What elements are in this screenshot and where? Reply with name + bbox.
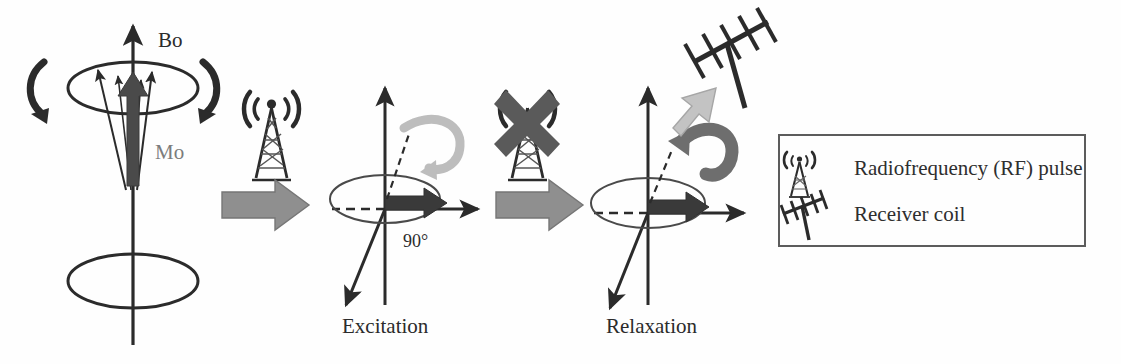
legend-label-receiver-coil: Receiver coil	[854, 202, 965, 227]
relaxation-panel	[591, 88, 744, 308]
figure-canvas: Bo Mo 90° Excitation Relaxation Radiofre…	[0, 0, 1121, 364]
receiver-yagi-antenna-icon	[790, 190, 844, 238]
caption-relaxation: Relaxation	[606, 316, 697, 337]
step-block-arrow-icon	[496, 180, 583, 230]
equilibrium-precession-panel	[30, 26, 217, 345]
rf-antenna-tower-icon	[244, 92, 299, 180]
excitation-panel	[330, 88, 478, 305]
flip-curved-arrow	[404, 119, 460, 180]
caption-excitation: Excitation	[342, 316, 428, 337]
rf-antenna-tower-icon	[790, 144, 844, 192]
label-mo: Mo	[155, 142, 184, 163]
dashed-tip-line	[387, 131, 410, 199]
legend-item-receiver-coil: Receiver coil	[790, 190, 965, 238]
precession-arrow-left	[30, 62, 49, 124]
legend-box: Radiofrequency (RF) pulse Receiver coil	[778, 134, 1086, 247]
rf-antenna-tower-off-icon	[494, 90, 560, 180]
recovery-curved-arrow	[668, 129, 732, 175]
legend-item-rf-pulse: Radiofrequency (RF) pulse	[790, 144, 1083, 192]
net-magnetization-arrow	[118, 72, 148, 186]
precession-arrow-right	[198, 62, 217, 124]
label-bo: Bo	[158, 30, 183, 51]
legend-label-rf-pulse: Radiofrequency (RF) pulse	[854, 156, 1083, 181]
step-block-arrow-icon	[222, 180, 309, 230]
transverse-magnetization-arrow	[648, 192, 709, 222]
spin-vector	[98, 70, 126, 190]
dashed-tip-line	[650, 150, 672, 203]
label-flip-angle: 90°	[403, 232, 428, 250]
